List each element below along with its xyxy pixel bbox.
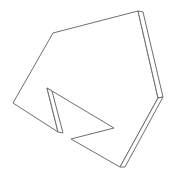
diagram-canvas: [0, 0, 179, 171]
polygon-drawing: [0, 0, 179, 171]
